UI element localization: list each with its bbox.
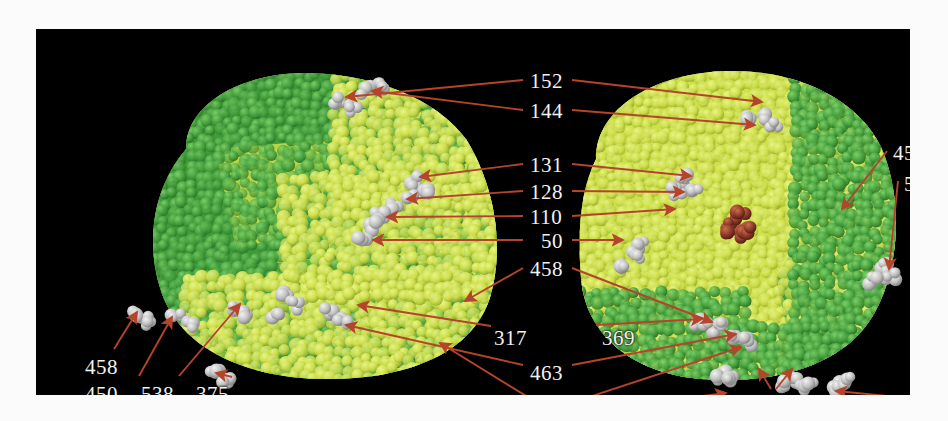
residue-label-l-450l: 450 — [85, 384, 118, 395]
residue-label-l-369: 369 — [602, 328, 635, 349]
residue-label-l-50: 50 — [541, 231, 563, 252]
residue-label-l-152: 152 — [530, 71, 563, 92]
structure-panel: 1521441311281105045831736946341458450538… — [36, 29, 910, 395]
structure-canvas: 1521441311281105045831736946341458450538… — [36, 29, 910, 395]
residue-label-l-375l: 375 — [196, 384, 229, 395]
residue-label-l-463: 463 — [530, 363, 563, 384]
figure-container: 1521441311281105045831736946341458450538… — [0, 0, 948, 421]
residue-label-l-131: 131 — [530, 155, 563, 176]
residue-label-l-317: 317 — [494, 328, 527, 349]
residue-label-l-110: 110 — [530, 207, 562, 228]
residue-label-l-128: 128 — [530, 182, 563, 203]
molecule-render — [36, 29, 910, 395]
residue-label-l-458c: 458 — [530, 259, 563, 280]
residue-label-l-458l: 458 — [85, 357, 118, 378]
residue-label-l-144: 144 — [530, 101, 563, 122]
residue-label-l-538l: 538 — [141, 384, 174, 395]
residue-label-l-538r: 538 — [904, 174, 910, 195]
residue-label-l-450r: 450 — [893, 143, 910, 164]
